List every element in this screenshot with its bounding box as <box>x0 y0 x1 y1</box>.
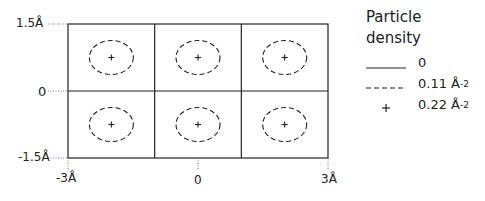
legend-label-mid: 0.11 Å <box>418 76 460 91</box>
legend-item-plus: 0.22 Å-2 <box>366 97 469 112</box>
legend-title-line1: Particle <box>366 9 421 26</box>
solid-line-sample <box>366 58 408 68</box>
x-tick-label-left: -3Å <box>56 172 76 184</box>
x-tick-label-right: 3Å <box>321 173 337 185</box>
plus-marker-sample <box>366 100 408 110</box>
legend-label-zero: 0 <box>418 55 426 70</box>
legend-item-dashed: 0.11 Å-2 <box>366 76 469 91</box>
legend-sup-mid: -2 <box>460 79 469 89</box>
legend-label-peak: 0.22 Å <box>418 97 460 112</box>
density-diagram: 1.5Å 0 -1.5Å -3Å 0 3Å Particle density 0… <box>0 0 485 201</box>
x-tick-label-middle: 0 <box>194 174 202 186</box>
legend-item-solid: 0 <box>366 55 426 70</box>
dashed-line-sample <box>366 79 408 89</box>
legend-title-line2: density <box>366 30 421 47</box>
y-tick-label-bottom: -1.5Å <box>18 151 50 163</box>
y-tick-label-top: 1.5Å <box>16 17 43 29</box>
legend-sup-peak: -2 <box>460 100 469 110</box>
y-tick-label-middle: 0 <box>38 86 46 98</box>
